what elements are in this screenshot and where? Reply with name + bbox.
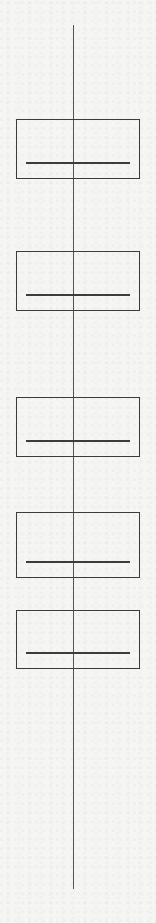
node-underline-bar (26, 561, 130, 563)
node-underline-bar (26, 294, 130, 296)
node-underline-bar (26, 162, 130, 164)
flow-node-4 (16, 512, 140, 578)
flow-node-2 (16, 251, 140, 311)
flow-node-1 (16, 119, 140, 179)
flow-node-3 (16, 397, 140, 457)
flow-node-5 (16, 610, 140, 669)
node-underline-bar (26, 652, 130, 654)
node-underline-bar (26, 440, 130, 442)
diagram-canvas (0, 0, 156, 923)
